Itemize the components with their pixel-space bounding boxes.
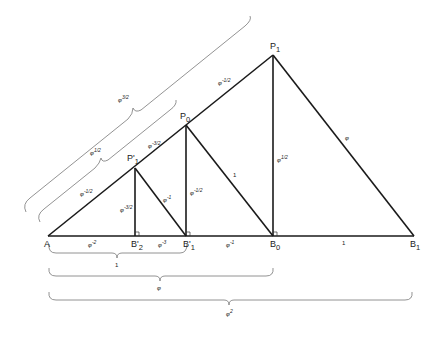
exponent: -1/2 — [194, 187, 203, 193]
point-label-subscript: 0 — [276, 243, 280, 252]
exponent: 3/2 — [122, 94, 129, 100]
point-label-P0: P0 — [180, 112, 190, 123]
segment-label-P1p-P0: φ-3/2 — [148, 141, 161, 149]
point-label-B1-prime: B'1 — [183, 240, 195, 251]
segment-label-A-B2p: φ-2 — [88, 240, 96, 248]
brace-label-hyp-outer: φ3/2 — [118, 95, 129, 103]
point-label-P1-prime: P'1 — [127, 154, 139, 165]
exponent: -3 — [162, 239, 166, 245]
point-label-subscript: 0 — [186, 115, 190, 124]
point-label-B1: B1 — [410, 240, 420, 251]
point-label-subscript: 1 — [135, 157, 139, 166]
segment-label-P0-B0: 1 — [233, 172, 236, 178]
segment-label-P0-P1: φ-1/2 — [218, 78, 231, 86]
brace-label-base-2: φ — [157, 285, 161, 291]
point-label-text: B' — [183, 239, 191, 249]
brace-label-base-1: 1 — [115, 262, 118, 268]
exponent: -1 — [230, 239, 234, 245]
point-label-B0: B0 — [270, 240, 280, 251]
exponent: 1/2 — [94, 147, 101, 153]
segment-label-B1p-B0: φ-1 — [226, 240, 234, 248]
diagram-lines — [0, 0, 436, 338]
golden-triangle-diagram: A B'2 B'1 B0 B1 P'1 P0 P1 φ-2 φ-3 φ-1 1 … — [0, 0, 436, 338]
point-label-subscript: 1 — [191, 243, 195, 252]
segment-label-P1-B0: φ1/2 — [277, 155, 288, 163]
segment-label-B0-B1: 1 — [342, 240, 345, 246]
segment-label-P0-B1p: φ-1/2 — [190, 188, 203, 196]
exponent: -1 — [167, 194, 171, 200]
exponent: 1/2 — [281, 154, 288, 160]
segment-label-P1p-B2p: φ-3/2 — [120, 205, 133, 213]
point-label-subscript: 2 — [139, 243, 143, 252]
exponent: -1/2 — [222, 77, 231, 83]
point-label-subscript: 1 — [276, 45, 280, 54]
exponent: -3/2 — [124, 204, 133, 210]
point-label-subscript: 1 — [416, 243, 420, 252]
brace-label-hyp-inner: φ1/2 — [90, 148, 101, 156]
exponent: -3/2 — [152, 140, 161, 146]
segment-label-A-P1p: φ-1/2 — [80, 189, 93, 197]
point-label-text: B' — [131, 239, 139, 249]
segment-label-P1p-B1p: φ-1 — [163, 195, 171, 203]
segment-label-P1-B1: φ — [345, 135, 349, 141]
exponent: 2 — [230, 308, 233, 314]
point-label-B2-prime: B'2 — [131, 240, 143, 251]
brace-label-base-3: φ2 — [226, 309, 233, 317]
point-label-A: A — [44, 240, 50, 249]
exponent: -2 — [92, 239, 96, 245]
point-label-text: P' — [127, 153, 135, 163]
segment-label-B2p-B1p: φ-3 — [158, 240, 166, 248]
exponent: -1/2 — [84, 188, 93, 194]
point-label-P1: P1 — [270, 42, 280, 53]
